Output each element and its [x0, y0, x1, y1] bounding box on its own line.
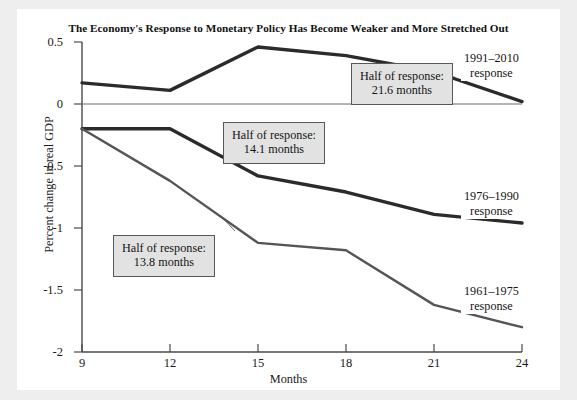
y-tick-label-4: -1.5 [23, 283, 63, 298]
series-label-line-1: 1961–1975 [464, 284, 519, 299]
series-label-line-1: 1976–1990 [464, 189, 519, 204]
annotation-line-1: Half of response: [232, 128, 316, 142]
series-label-line-1: 1991–2010 [464, 51, 519, 66]
annotation-line-1: Half of response: [360, 69, 444, 83]
annotation-line-2: 13.8 months [122, 255, 206, 269]
annotation-line-2: 14.1 months [232, 142, 316, 156]
annotation-line-2: 21.6 months [360, 83, 444, 97]
series-label-line-2: response [464, 204, 519, 219]
x-tick-label-4: 21 [414, 356, 454, 371]
annotation-line-1: Half of response: [122, 241, 206, 255]
annotation-half-response-13-8: Half of response: 13.8 months [113, 235, 215, 277]
series-line-1991-2010 [82, 47, 522, 102]
x-tick-label-5: 24 [502, 356, 542, 371]
x-tick-label-2: 15 [238, 356, 278, 371]
series-label-line-2: response [464, 299, 519, 314]
x-tick-label-3: 18 [326, 356, 366, 371]
x-tick-label-0: 9 [62, 356, 102, 371]
chart-figure: The Economy's Response to Monetary Polic… [0, 0, 577, 400]
series-label-1991-2010: 1991–2010 response [461, 50, 522, 81]
annotation-half-response-14-1: Half of response: 14.1 months [223, 122, 325, 164]
series-label-1961-1975: 1961–1975 response [461, 283, 522, 314]
y-axis-label: Percent change in real GDP [42, 85, 57, 285]
annotation-half-response-21-6: Half of response: 21.6 months [351, 63, 453, 105]
x-tick-label-1: 12 [150, 356, 190, 371]
series-label-line-2: response [464, 66, 519, 81]
y-tick-label-0: 0.5 [23, 35, 63, 50]
series-label-1976-1990: 1976–1990 response [461, 188, 522, 219]
x-axis-label: Months [17, 372, 560, 387]
y-tick-label-5: -2 [23, 345, 63, 360]
chart-panel: The Economy's Response to Monetary Polic… [17, 9, 560, 390]
